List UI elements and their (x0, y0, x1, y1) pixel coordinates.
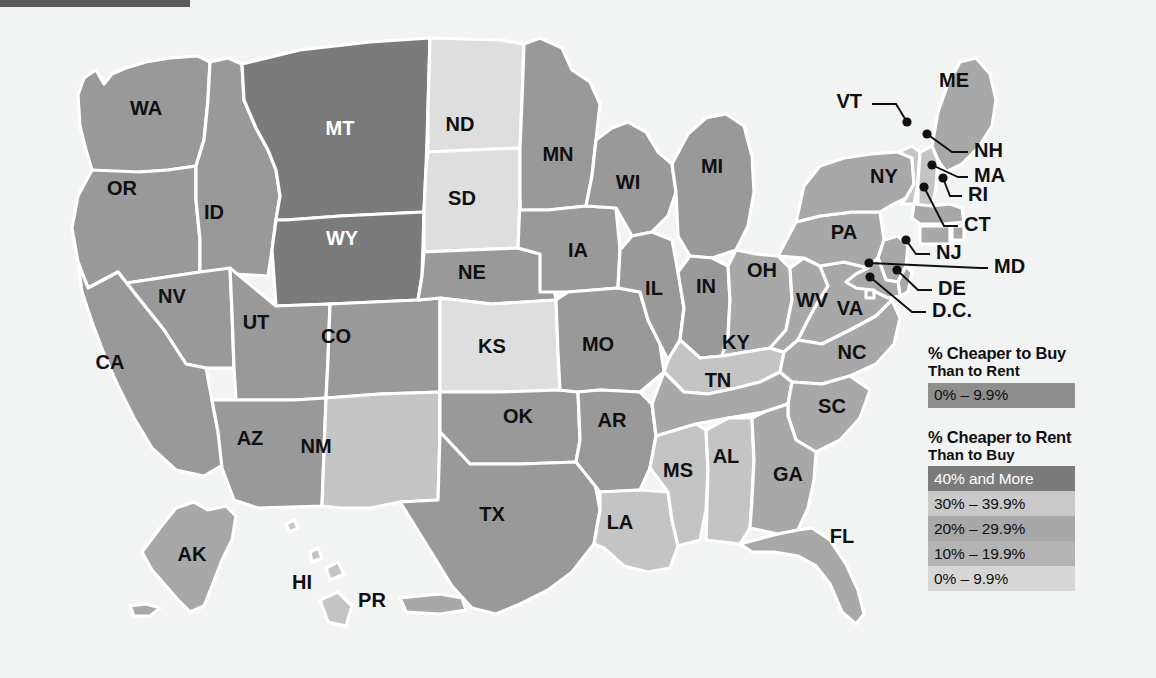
legend-swatch-label: 40% and More (934, 470, 1034, 488)
map-legend: % Cheaper to Buy Than to Rent 0% – 9.9% … (928, 344, 1080, 611)
legend-swatch-label: 0% – 9.9% (934, 570, 1008, 588)
map-label-IN: IN (696, 275, 716, 297)
legend-swatch-rent-2[interactable]: 20% – 29.9% (928, 516, 1075, 541)
legend-swatch-rent-3[interactable]: 10% – 19.9% (928, 541, 1075, 566)
state-NE[interactable] (418, 248, 556, 304)
state-AK-aleutians[interactable] (130, 604, 160, 616)
map-label-IA: IA (568, 239, 588, 261)
legend-swatch-label: 20% – 29.9% (934, 520, 1025, 538)
map-label-UT: UT (243, 311, 270, 333)
callout-label-NH: NH (974, 139, 1003, 161)
map-label-NE: NE (458, 261, 486, 283)
legend-group-rent: % Cheaper to Rent Than to Buy 40% and Mo… (928, 428, 1080, 592)
map-label-PR: PR (358, 589, 386, 611)
legend-swatch-rent-1[interactable]: 30% – 39.9% (928, 491, 1075, 516)
legend-swatch-rent-0[interactable]: 40% and More (928, 466, 1075, 491)
callout-label-DC: D.C. (932, 299, 972, 321)
map-label-ID: ID (204, 201, 224, 223)
map-label-SD: SD (448, 187, 476, 209)
map-label-CA: CA (96, 351, 125, 373)
map-label-AZ: AZ (237, 427, 264, 449)
callout-label-RI: RI (968, 183, 988, 205)
state-AR[interactable] (576, 390, 656, 492)
callout-label-NJ: NJ (936, 241, 962, 263)
state-AL[interactable] (706, 418, 754, 544)
map-label-MI: MI (701, 155, 723, 177)
map-label-NY: NY (870, 165, 898, 187)
map-label-KS: KS (478, 335, 506, 357)
map-label-OR: OR (107, 177, 138, 199)
state-DC[interactable] (866, 290, 874, 298)
map-label-MO: MO (582, 333, 614, 355)
map-label-MS: MS (663, 459, 693, 481)
map-label-IL: IL (645, 277, 663, 299)
map-label-FL: FL (830, 525, 854, 547)
map-label-AR: AR (598, 409, 627, 431)
callout-label-DE: DE (938, 277, 966, 299)
legend-swatch-label: 10% – 19.9% (934, 545, 1025, 563)
state-HI-2[interactable] (310, 548, 322, 562)
state-PR[interactable] (400, 594, 466, 614)
state-HI[interactable] (286, 520, 298, 532)
callout-label-MD: MD (994, 255, 1025, 277)
state-HI-3[interactable] (326, 562, 344, 580)
map-label-OH: OH (747, 259, 777, 281)
legend-rent-title-line2: Than to Buy (928, 446, 1080, 463)
callout-label-CT: CT (964, 213, 991, 235)
legend-buy-title-line1: % Cheaper to Buy (928, 344, 1080, 362)
legend-swatch-rent-4[interactable]: 0% – 9.9% (928, 566, 1075, 591)
state-MN[interactable] (520, 38, 600, 210)
map-label-NV: NV (158, 285, 186, 307)
map-label-KY: KY (722, 331, 750, 353)
map-label-TN: TN (705, 369, 732, 391)
state-ND[interactable] (428, 38, 524, 152)
state-CO[interactable] (326, 298, 440, 398)
map-label-WV: WV (796, 289, 829, 311)
state-HI-4[interactable] (320, 592, 352, 626)
callout-leader-VT (872, 104, 907, 122)
legend-swatch-label: 30% – 39.9% (934, 495, 1025, 513)
map-label-OK: OK (503, 405, 534, 427)
map-label-TX: TX (479, 503, 505, 525)
map-label-GA: GA (773, 463, 803, 485)
callout-label-VT: VT (836, 90, 862, 112)
map-label-PA: PA (831, 221, 857, 243)
state-RI[interactable] (952, 226, 964, 240)
legend-group-buy: % Cheaper to Buy Than to Rent 0% – 9.9% (928, 344, 1080, 408)
legend-buy-title-line2: Than to Rent (928, 362, 1080, 379)
map-label-LA: LA (607, 511, 634, 533)
map-label-VA: VA (837, 297, 863, 319)
map-label-SC: SC (818, 395, 846, 417)
state-WY[interactable] (272, 212, 424, 306)
state-MI[interactable] (672, 114, 754, 258)
state-NM[interactable] (322, 392, 440, 508)
map-label-CO: CO (321, 325, 351, 347)
map-label-WY: WY (326, 227, 359, 249)
legend-swatch-buy-0[interactable]: 0% – 9.9% (928, 383, 1075, 408)
map-label-MN: MN (542, 143, 573, 165)
map-label-ME: ME (939, 69, 969, 91)
legend-swatch-label: 0% – 9.9% (934, 386, 1008, 404)
map-label-AK: AK (178, 543, 207, 565)
map-label-HI: HI (292, 571, 312, 593)
map-label-NC: NC (838, 341, 867, 363)
map-label-WI: WI (616, 171, 640, 193)
map-label-AL: AL (713, 445, 740, 467)
map-label-MT: MT (326, 117, 355, 139)
map-label-WA: WA (130, 97, 162, 119)
legend-rent-title-line1: % Cheaper to Rent (928, 428, 1080, 446)
map-label-NM: NM (300, 435, 331, 457)
map-label-ND: ND (446, 113, 475, 135)
